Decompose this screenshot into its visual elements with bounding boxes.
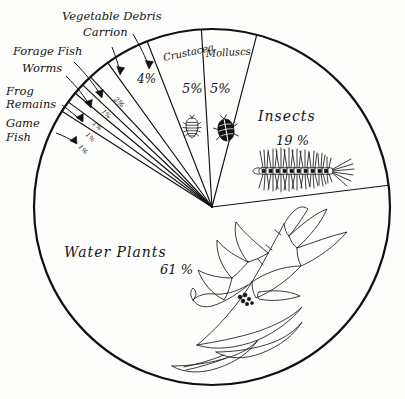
callout-label-worms: Worms [22,61,62,75]
slice-label-molluscs: Molluscs [205,46,251,59]
percent-game-fish: 1% [77,143,90,156]
callout-label-forage-fish: Forage Fish [12,44,82,58]
pie-chart-canvas: Vegetable Debris Carrion Forage Fish Wor… [0,0,405,399]
divider-foragefish-worms [83,85,212,207]
callout-label-fish: Fish [5,130,31,144]
percent-crustacea: 5% [182,81,203,96]
slice-insects: Insects 19 % [253,108,354,192]
divider-waterplants-insects [212,185,389,207]
arrowhead-worms [85,100,93,109]
percent-molluscs: 5% [210,81,231,96]
callout-label-carrion: Carrion [83,25,128,39]
arrowhead-vegetable-debris [145,61,153,69]
slice-label-insects: Insects [257,108,316,124]
divider-worms-frogremains [75,93,212,207]
crustacean-isopod-illustration [183,115,201,138]
percent-carrion: 2% [111,94,127,109]
arrowhead-game-fish [70,136,77,144]
hairy-caterpillar-illustration [253,148,354,192]
callout-label-vegetable-debris: Vegetable Debris [62,9,162,23]
divider-insects-molluscs [212,35,257,207]
percent-water-plants: 61 % [160,262,193,277]
percent-forage-fish: 1% [100,108,113,121]
percent-insects: 19 % [276,133,309,148]
arrowhead-forage-fish [96,90,104,98]
divider-gamefish-waterplants [62,111,212,207]
slice-molluscs: Molluscs 5% [205,46,251,143]
slice-water-plants: Water Plants 61 % [64,207,347,372]
arrowhead-carrion [117,66,125,75]
divider-crustacea-vegetabledebris [147,41,212,207]
slice-label-water-plants: Water Plants [64,244,167,260]
percent-vegetable-debris: 4% [136,72,156,86]
pie-chart-figure: Vegetable Debris Carrion Forage Fish Wor… [0,0,405,399]
callout-label-game: Game [6,116,40,130]
callout-label-frog: Frog [5,84,34,98]
callout-label-remains: Remains [5,97,56,111]
divider-carrion-foragefish [91,77,212,207]
